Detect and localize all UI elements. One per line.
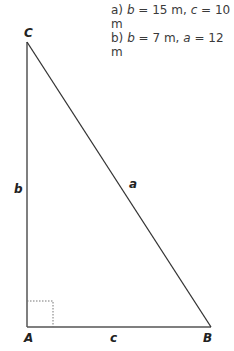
right-triangle bbox=[0, 0, 234, 351]
side-a-label: a bbox=[129, 177, 137, 191]
right-angle-marker bbox=[27, 301, 53, 327]
vertex-a-label: A bbox=[24, 331, 33, 345]
vertex-c-label: C bbox=[24, 26, 33, 40]
vertex-b-label: B bbox=[203, 331, 212, 345]
side-b-label: b bbox=[14, 182, 23, 196]
side-c-label: c bbox=[110, 331, 117, 345]
side-a-line bbox=[27, 42, 211, 327]
